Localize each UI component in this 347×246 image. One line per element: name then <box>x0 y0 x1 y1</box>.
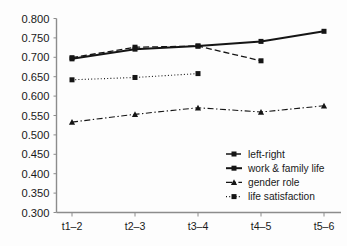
y-tick-label: 0.800 <box>22 13 50 25</box>
chart-legend: left-rightwork & family lifegender rolel… <box>226 149 325 203</box>
legend-item-work-family-life[interactable]: work & family life <box>226 163 325 174</box>
series-left-right <box>70 44 264 64</box>
legend-label: work & family life <box>247 163 325 174</box>
x-tick-label: t5–6 <box>314 220 335 232</box>
data-point-marker <box>322 29 327 34</box>
legend-label: left-right <box>248 149 285 160</box>
y-tick-label: 0.700 <box>22 51 50 63</box>
legend-marker <box>232 152 237 157</box>
data-point-marker <box>259 39 264 44</box>
y-tick-label: 0.550 <box>22 110 50 122</box>
data-point-marker <box>133 47 138 52</box>
data-point-marker <box>70 77 75 82</box>
data-point-marker <box>196 71 201 76</box>
data-point-marker <box>70 56 75 61</box>
data-point-marker <box>133 75 138 80</box>
line-chart: 0.3000.3500.4000.4500.5000.5500.6000.650… <box>0 0 347 246</box>
series-gender-role <box>69 103 327 125</box>
y-tick-label: 0.350 <box>22 187 50 199</box>
y-tick-label: 0.600 <box>22 90 50 102</box>
chart-container: 0.3000.3500.4000.4500.5000.5500.6000.650… <box>0 0 347 246</box>
data-point-marker <box>196 44 201 49</box>
x-tick-label: t1–2 <box>62 220 83 232</box>
y-tick-label: 0.400 <box>22 168 50 180</box>
y-tick-group: 0.3000.3500.4000.4500.5000.5500.6000.650… <box>22 13 57 219</box>
data-series-group <box>69 29 327 125</box>
legend-label: gender role <box>248 177 300 188</box>
series-life-satisfaction <box>70 71 201 82</box>
x-axis: t1–2t2–3t3–4t4–5t5–6 <box>57 213 342 232</box>
legend-item-left-right[interactable]: left-right <box>226 149 285 160</box>
y-tick-label: 0.300 <box>22 207 50 219</box>
legend-item-life-satisfaction[interactable]: life satisfaction <box>226 191 315 202</box>
x-tick-group: t1–2t2–3t3–4t4–5t5–6 <box>62 213 335 232</box>
y-axis: 0.3000.3500.4000.4500.5000.5500.6000.650… <box>22 13 57 219</box>
x-tick-label: t2–3 <box>125 220 146 232</box>
y-tick-label: 0.750 <box>22 32 50 44</box>
y-tick-label: 0.450 <box>22 148 50 160</box>
legend-item-gender-role[interactable]: gender role <box>226 177 300 188</box>
data-point-marker <box>259 58 264 63</box>
series-work-family-life <box>70 29 327 62</box>
y-tick-label: 0.500 <box>22 129 50 141</box>
x-tick-label: t4–5 <box>251 220 272 232</box>
x-tick-label: t3–4 <box>188 220 209 232</box>
legend-label: life satisfaction <box>248 191 315 202</box>
legend-marker <box>232 194 237 199</box>
y-tick-label: 0.650 <box>22 71 50 83</box>
legend-marker <box>232 166 237 171</box>
